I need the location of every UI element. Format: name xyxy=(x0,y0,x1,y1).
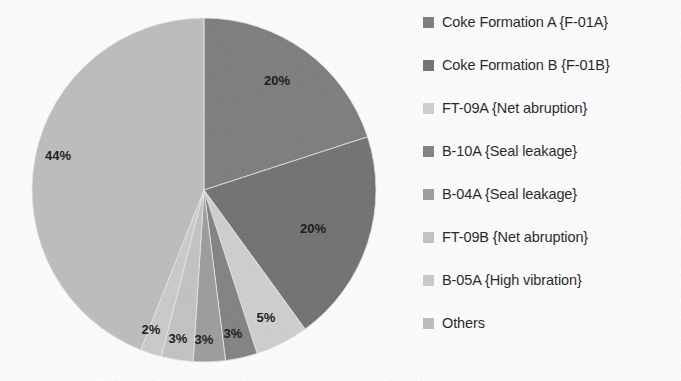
chart-legend: Coke Formation A {F-01A}Coke Formation B… xyxy=(423,14,681,364)
legend-item[interactable]: Coke Formation A {F-01A} xyxy=(423,14,681,30)
legend-color-swatch-icon xyxy=(423,17,434,28)
pie-svg: 20%20%5%3%3%3%2%44% xyxy=(0,0,410,381)
legend-item[interactable]: B-05A {High vibration} xyxy=(423,272,681,288)
legend-color-swatch-icon xyxy=(423,146,434,157)
legend-item[interactable]: B-10A {Seal leakage} xyxy=(423,143,681,159)
legend-item[interactable]: FT-09A {Net abruption} xyxy=(423,100,681,116)
pie-slice-value-label: 20% xyxy=(300,221,326,236)
pie-slice-value-label: 5% xyxy=(257,310,276,325)
legend-color-swatch-icon xyxy=(423,103,434,114)
legend-item[interactable]: Others xyxy=(423,315,681,331)
legend-item[interactable]: FT-09B {Net abruption} xyxy=(423,229,681,245)
pie-slice-value-label: 3% xyxy=(169,331,188,346)
pie-chart-area: 20%20%5%3%3%3%2%44% xyxy=(0,0,410,381)
legend-item[interactable]: B-04A {Seal leakage} xyxy=(423,186,681,202)
pie-chart-figure: 20%20%5%3%3%3%2%44% Coke Formation A {F-… xyxy=(0,0,681,381)
legend-item[interactable]: Coke Formation B {F-01B} xyxy=(423,57,681,73)
legend-item-label: Coke Formation A {F-01A} xyxy=(442,14,608,30)
pie-slice-value-label: 44% xyxy=(45,148,71,163)
legend-item-label: FT-09A {Net abruption} xyxy=(442,100,587,116)
legend-item-label: FT-09B {Net abruption} xyxy=(442,229,588,245)
legend-color-swatch-icon xyxy=(423,232,434,243)
legend-item-label: Coke Formation B {F-01B} xyxy=(442,57,610,73)
legend-item-label: B-10A {Seal leakage} xyxy=(442,143,577,159)
legend-color-swatch-icon xyxy=(423,60,434,71)
legend-item-label: Others xyxy=(442,315,485,331)
pie-slice-value-label: 20% xyxy=(264,73,290,88)
pie-slice-value-label: 3% xyxy=(195,332,214,347)
legend-color-swatch-icon xyxy=(423,189,434,200)
legend-item-label: B-05A {High vibration} xyxy=(442,272,582,288)
pie-slice-value-label: 3% xyxy=(224,326,243,341)
pie-slices xyxy=(32,18,376,362)
legend-color-swatch-icon xyxy=(423,318,434,329)
legend-item-label: B-04A {Seal leakage} xyxy=(442,186,577,202)
pie-slice-value-label: 2% xyxy=(142,322,161,337)
legend-color-swatch-icon xyxy=(423,275,434,286)
